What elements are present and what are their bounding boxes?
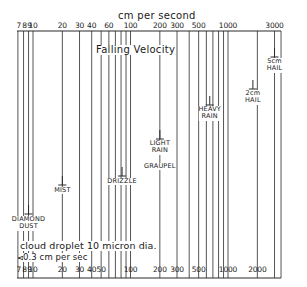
tick-label: 300 — [170, 266, 184, 274]
tick-label: 200 — [153, 266, 167, 274]
tick-label: 8 — [22, 266, 27, 274]
tick-label: 30 — [75, 266, 84, 274]
tick-label: 2000 — [248, 266, 266, 274]
mist-label: MIST — [54, 187, 70, 194]
drizzle-label: DRIZZLE — [107, 178, 136, 185]
tick-label: 7 — [17, 22, 22, 30]
2cm-hail-label: 2cmHAIL — [245, 90, 261, 105]
cloud-droplet-note: cloud droplet 10 micron dia. — [20, 241, 157, 251]
tick-label: 1000 — [219, 266, 237, 274]
tick-label: 60 — [104, 22, 113, 30]
tick-label: 100 — [124, 22, 138, 30]
category-label-line: DUST — [12, 223, 45, 230]
5cm-hail-label: 5cmHAIL — [267, 58, 283, 73]
graupel-label: GRAUPEL — [144, 163, 176, 170]
category-label-line: RAIN — [199, 113, 221, 120]
tick-label: 500 — [192, 22, 206, 30]
tick-label: 40 — [87, 266, 96, 274]
category-label-line: RAIN — [150, 147, 170, 154]
tick-label: 3000 — [265, 22, 283, 30]
heavy-rain-label: HEAVYRAIN — [199, 106, 221, 121]
tick-label: 10 — [28, 266, 37, 274]
tick-label: 100 — [124, 266, 138, 274]
tick-label: 7 — [17, 266, 22, 274]
diagram-title: Falling Velocity — [95, 45, 176, 55]
tick-label: 200 — [153, 22, 167, 30]
tick-label: 300 — [170, 22, 184, 30]
tick-label: 8 — [22, 22, 27, 30]
category-label-line: HAIL — [267, 65, 283, 72]
category-label-line: HAIL — [245, 97, 261, 104]
tick-label: 20 — [58, 266, 67, 274]
cloud-droplet-velocity: 0.3 cm per sec — [23, 253, 87, 262]
category-label-line: GRAUPEL — [144, 163, 176, 170]
category-label-line: MIST — [54, 187, 70, 194]
tick-label: 30 — [75, 22, 84, 30]
category-label-line: DRIZZLE — [107, 178, 136, 185]
tick-label: 1000 — [219, 22, 237, 30]
tick-label: 40 — [87, 22, 96, 30]
axis-unit-label: cm per second — [118, 11, 196, 21]
diamond-dust-label: DIAMONDDUST — [12, 216, 45, 231]
light-rain-label: LIGHTRAIN — [150, 140, 170, 155]
tick-label: 10 — [28, 22, 37, 30]
tick-label: 20 — [58, 22, 67, 30]
tick-label: 500 — [192, 266, 206, 274]
falling-velocity-diagram: cm per second 78910203040601002003005001… — [0, 0, 307, 287]
tick-label: 50 — [97, 266, 106, 274]
